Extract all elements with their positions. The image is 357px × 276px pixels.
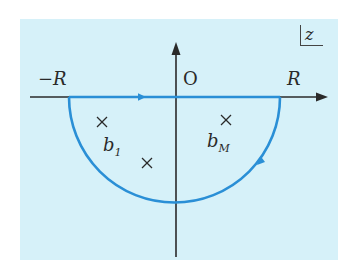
plane-label: z: [305, 25, 313, 44]
pole-marker-middle: [142, 158, 152, 168]
contour-direction-arrow-icon: [138, 93, 146, 101]
label-R: R: [287, 70, 301, 88]
pole-name: b: [207, 130, 219, 151]
pole-marker-bM: [221, 115, 231, 125]
label-bM: bM: [207, 132, 230, 150]
label-origin: O: [183, 70, 198, 88]
label-b1: b1: [103, 136, 122, 154]
pole-subscript: M: [219, 142, 230, 155]
pole-marker-b1: [97, 117, 107, 127]
pole-name: b: [103, 134, 115, 155]
contour-arc: [69, 97, 280, 203]
pole-subscript: 1: [115, 146, 122, 159]
real-axis-arrow-icon: [316, 93, 328, 102]
complex-plane-label-box: z: [300, 25, 323, 46]
label-minus-R: −R: [38, 70, 67, 88]
imaginary-axis-arrow-icon: [172, 42, 181, 55]
